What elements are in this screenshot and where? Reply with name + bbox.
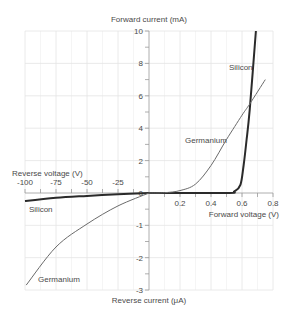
x-tick-label: 0.4 — [205, 199, 217, 208]
x-tick-label: -25 — [112, 178, 124, 187]
diode-iv-chart: 1086420-1-2-3-100-75-50-250.20.40.60.8 F… — [0, 0, 295, 319]
label-silicon-forward: Silicon — [229, 63, 253, 72]
y-tick-label: 6 — [139, 92, 144, 101]
x-tick-label: -100 — [17, 178, 34, 187]
y-tick-label: -3 — [136, 286, 144, 295]
y-tick-label: 4 — [139, 124, 144, 133]
y-tick-label: 8 — [139, 59, 144, 68]
label-germanium-reverse: Germanium — [38, 275, 80, 284]
x-axis-right-title: Forward voltage (V) — [209, 210, 280, 219]
y-axis-bottom-title: Reverse current (μA) — [112, 296, 187, 305]
y-tick-label: -1 — [136, 221, 144, 230]
silicon-forward-curve — [149, 31, 256, 193]
label-silicon-reverse: Silicon — [29, 205, 53, 214]
y-tick-label: -2 — [136, 254, 144, 263]
y-tick-label: 10 — [134, 27, 143, 36]
x-tick-label: 0.6 — [236, 199, 248, 208]
x-tick-label: -75 — [50, 178, 62, 187]
x-axis-left-title: Reverse voltage (V) — [12, 169, 83, 178]
x-tick-label: -50 — [81, 178, 93, 187]
x-tick-label: 0.8 — [267, 199, 279, 208]
y-axis-top-title: Forward current (mA) — [111, 15, 187, 24]
label-germanium-forward: Germanium — [185, 136, 227, 145]
y-tick-label: 2 — [139, 157, 144, 166]
x-tick-label: 0.2 — [174, 199, 186, 208]
